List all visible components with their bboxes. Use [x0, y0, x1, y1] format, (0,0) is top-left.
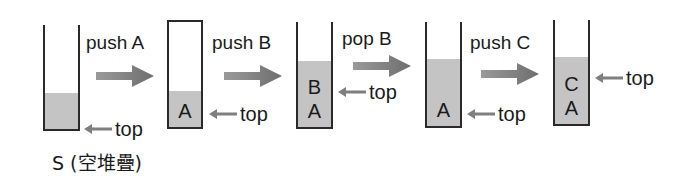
stack-item: B: [298, 77, 331, 97]
top-pointer-s2: top: [338, 82, 397, 102]
arrow-left-icon: [209, 108, 237, 120]
top-pointer-s4: top: [595, 68, 654, 88]
stack-after-pop-b: A: [425, 22, 462, 128]
op-label-pop-b: pop B: [342, 29, 392, 49]
stack-item: A: [169, 101, 201, 121]
arrow-left-icon: [467, 108, 495, 120]
stack-base-fill: [45, 93, 78, 129]
top-pointer-s0: top: [84, 119, 143, 139]
stack-item: C: [555, 74, 588, 94]
arrow-left-icon: [595, 72, 623, 84]
op-label-push-c: push C: [470, 33, 530, 53]
stack-item: A: [427, 100, 460, 120]
top-pointer-s3: top: [467, 104, 526, 124]
op-label-push-b: push B: [212, 33, 271, 53]
top-pointer-s1: top: [209, 104, 268, 124]
top-label: top: [369, 82, 397, 102]
stack-item: A: [555, 98, 588, 118]
stack-after-push-a: A: [167, 20, 203, 129]
arrow-right-icon: [224, 65, 282, 87]
empty-stack-caption: S (空堆疊): [52, 148, 142, 175]
arrow-left-icon: [84, 123, 112, 135]
arrow-right-icon: [96, 65, 154, 87]
stack-empty: [43, 25, 80, 131]
stack-after-push-c: A C: [553, 20, 590, 126]
stack-item: A: [298, 101, 331, 121]
top-label: top: [626, 68, 654, 88]
arrow-left-icon: [338, 86, 366, 98]
top-label: top: [115, 119, 143, 139]
arrow-right-icon: [353, 55, 411, 77]
op-label-push-a: push A: [86, 33, 144, 53]
arrow-right-icon: [481, 63, 539, 85]
top-label: top: [240, 104, 268, 124]
stack-after-push-b: A B: [296, 22, 333, 129]
top-label: top: [498, 104, 526, 124]
